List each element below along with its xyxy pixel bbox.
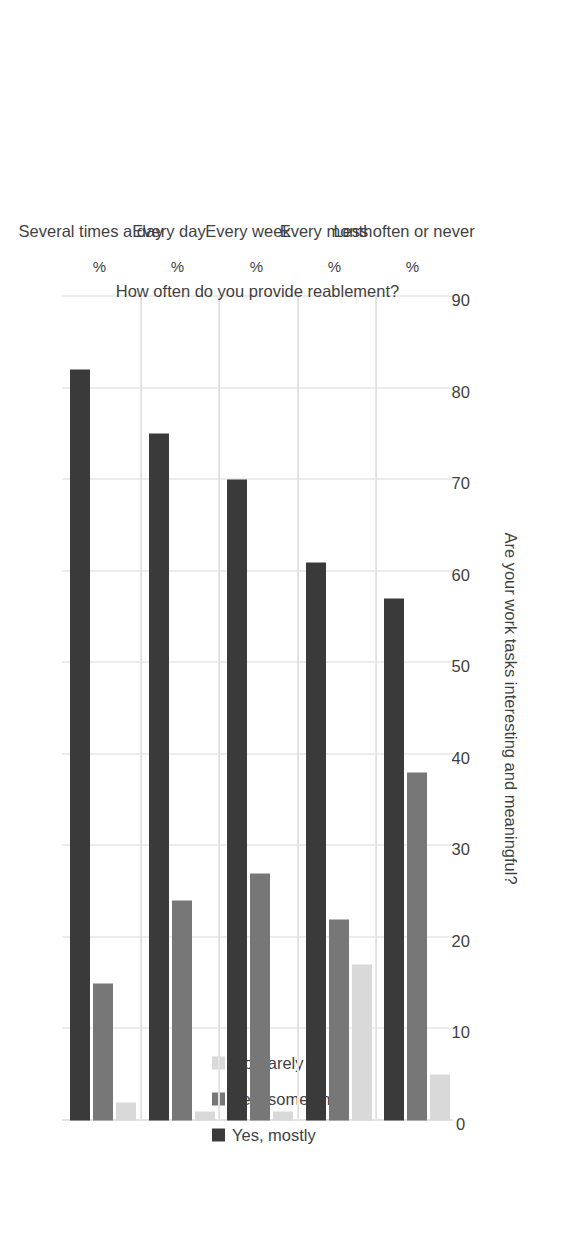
bar-group-0 bbox=[62, 296, 140, 1120]
plot-area bbox=[62, 296, 453, 1120]
category-label-4: Less often or never bbox=[329, 220, 479, 240]
bar-4-1[interactable] bbox=[407, 772, 427, 1120]
value-tick-0: 0 bbox=[441, 1114, 481, 1133]
group-separator-1 bbox=[141, 296, 142, 1120]
bar-2-2[interactable] bbox=[273, 1111, 293, 1120]
value-tick-labels: 9080706050403020100 bbox=[455, 296, 495, 1120]
bar-0-0[interactable] bbox=[70, 369, 90, 1120]
bar-3-0[interactable] bbox=[306, 562, 326, 1120]
value-tick-50: 50 bbox=[441, 657, 481, 676]
legend-swatch-icon-0 bbox=[212, 1128, 225, 1141]
bar-group-4 bbox=[375, 296, 453, 1120]
group-separator-4 bbox=[376, 296, 377, 1120]
legend-label-0: Yes, mostly bbox=[232, 1125, 316, 1144]
bar-4-0[interactable] bbox=[384, 598, 404, 1120]
value-tick-60: 60 bbox=[441, 565, 481, 584]
value-tick-40: 40 bbox=[441, 748, 481, 767]
value-axis-title: Are your work tasks interesting and mean… bbox=[500, 296, 521, 1120]
category-axis-title: How often do you provide reablement? bbox=[62, 275, 453, 305]
bar-1-0[interactable] bbox=[149, 433, 169, 1120]
bar-group-2 bbox=[218, 296, 296, 1120]
value-tick-70: 70 bbox=[441, 473, 481, 492]
bar-group-3 bbox=[297, 296, 375, 1120]
bar-4-2[interactable] bbox=[430, 1074, 450, 1120]
bar-0-1[interactable] bbox=[93, 983, 113, 1120]
bar-1-1[interactable] bbox=[172, 900, 192, 1120]
value-tick-80: 80 bbox=[441, 382, 481, 401]
rotated-chart-stage: Yes, mostly Yes, sometimes No, rarely %%… bbox=[0, 0, 574, 1235]
group-separator-3 bbox=[298, 296, 299, 1120]
category-tick-labels: Several times a dayEvery dayEvery weekEv… bbox=[62, 183, 453, 275]
bar-3-1[interactable] bbox=[329, 919, 349, 1120]
legend-item-0: Yes, mostly bbox=[212, 1125, 316, 1144]
bar-2-1[interactable] bbox=[250, 873, 270, 1120]
bar-1-2[interactable] bbox=[195, 1111, 215, 1120]
group-separator-2 bbox=[219, 296, 220, 1120]
bar-3-2[interactable] bbox=[352, 964, 372, 1120]
chart-area: Yes, mostly Yes, sometimes No, rarely %%… bbox=[0, 0, 574, 1235]
bar-0-2[interactable] bbox=[116, 1102, 136, 1120]
value-tick-20: 20 bbox=[441, 931, 481, 950]
bar-group-1 bbox=[140, 296, 218, 1120]
value-tick-30: 30 bbox=[441, 840, 481, 859]
bar-2-0[interactable] bbox=[227, 479, 247, 1120]
value-tick-10: 10 bbox=[441, 1023, 481, 1042]
